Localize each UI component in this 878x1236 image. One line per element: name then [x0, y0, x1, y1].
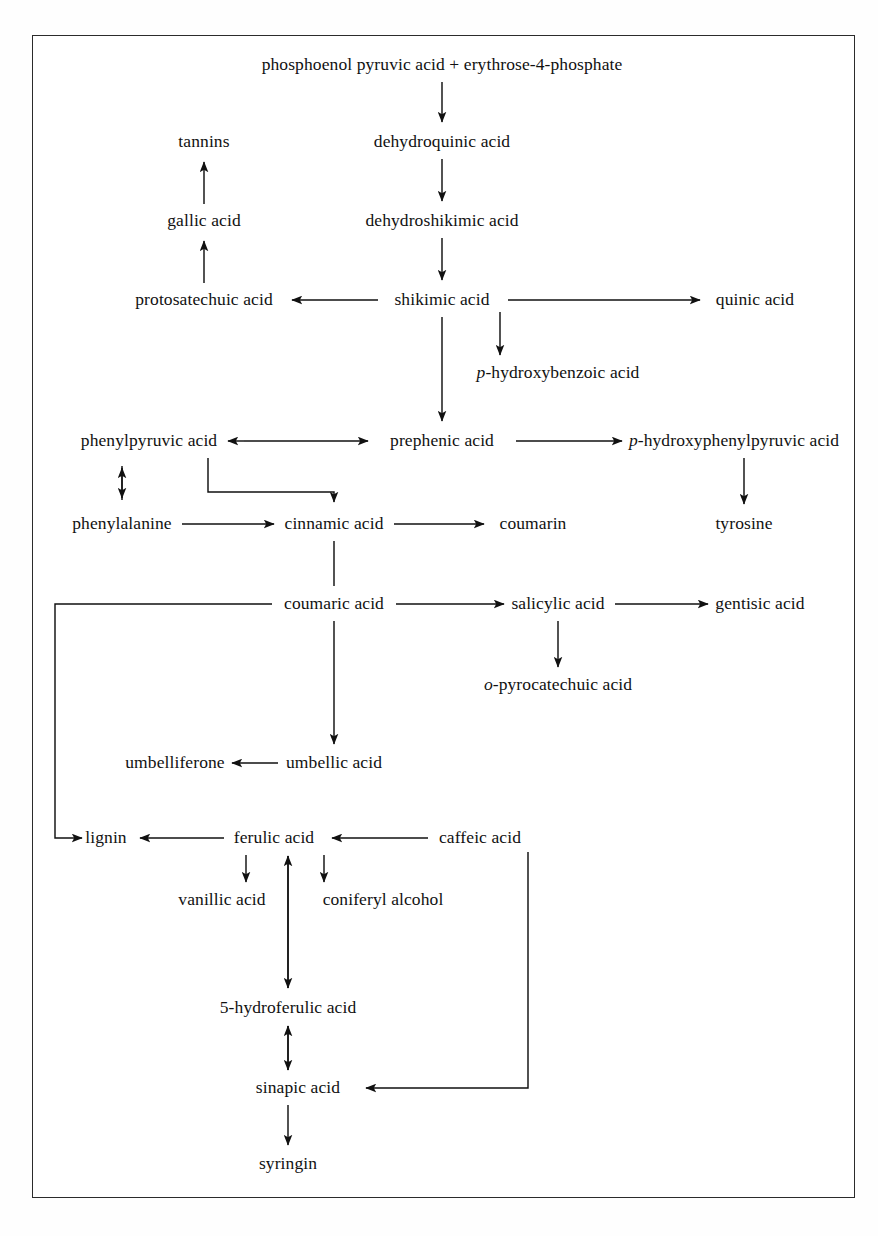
node-tyrosine: tyrosine: [715, 514, 772, 533]
node-hydroferulic: 5-hydroferulic acid: [220, 998, 357, 1017]
node-pep: phosphoenol pyruvic acid + erythrose-4-p…: [262, 55, 623, 74]
node-coniferyl: coniferyl alcohol: [323, 890, 444, 909]
node-pyrocatechuic-label: -pyrocatechuic acid: [493, 674, 632, 694]
node-prephenic: prephenic acid: [390, 431, 494, 450]
node-phba-label: -hydroxybenzoic acid: [485, 362, 639, 382]
node-dehydroquinic: dehydroquinic acid: [374, 132, 510, 151]
node-phenylalanine: phenylalanine: [72, 514, 171, 533]
node-lignin: lignin: [85, 828, 126, 847]
node-phba-italic-prefix: p: [477, 362, 486, 382]
node-sinapic: sinapic acid: [256, 1078, 340, 1097]
node-salicylic: salicylic acid: [511, 594, 604, 613]
node-shikimic: shikimic acid: [394, 290, 489, 309]
node-hppa: p-hydroxyphenylpyruvic acid: [629, 431, 839, 450]
node-umbellic: umbellic acid: [286, 753, 382, 772]
node-phba: p-hydroxybenzoic acid: [477, 363, 640, 382]
node-pyrocatechuic-italic-prefix: o: [484, 674, 493, 694]
node-umbelliferone: umbelliferone: [125, 753, 224, 772]
node-coumarin: coumarin: [500, 514, 567, 533]
node-phenylpyruvic: phenylpyruvic acid: [81, 431, 217, 450]
node-ferulic: ferulic acid: [234, 828, 314, 847]
figure-page: phosphoenol pyruvic acid + erythrose-4-p…: [0, 0, 878, 1236]
node-gallic: gallic acid: [167, 211, 241, 230]
node-hppa-italic-prefix: p: [629, 430, 638, 450]
node-hppa-label: -hydroxyphenylpyruvic acid: [638, 430, 839, 450]
node-cinnamic: cinnamic acid: [285, 514, 384, 533]
node-coumaric: coumaric acid: [284, 594, 384, 613]
node-vanillic: vanillic acid: [178, 890, 265, 909]
node-pyrocatechuic: o-pyrocatechuic acid: [484, 675, 632, 694]
node-syringin: syringin: [259, 1154, 317, 1173]
node-tannins: tannins: [178, 132, 229, 151]
node-caffeic: caffeic acid: [439, 828, 521, 847]
node-gentisic: gentisic acid: [715, 594, 804, 613]
node-dehydroshikimic: dehydroshikimic acid: [365, 211, 518, 230]
node-protosatechuic: protosatechuic acid: [135, 290, 272, 309]
node-quinic: quinic acid: [716, 290, 794, 309]
